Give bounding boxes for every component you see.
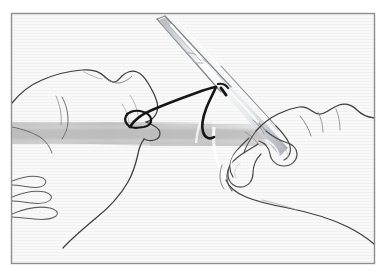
illustration-canvas bbox=[0, 0, 388, 273]
wound-band bbox=[12, 122, 270, 146]
illustration-figure: Surgical suturing technique illustration… bbox=[0, 0, 388, 273]
